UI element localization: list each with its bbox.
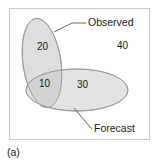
venn-diagram-svg: Observed Forecast 20 10 30 40 — [10, 9, 151, 141]
venn-diagram-frame: Observed Forecast 20 10 30 40 — [9, 8, 150, 140]
figure-caption: (a) — [7, 145, 20, 159]
leader-line-observed — [54, 23, 86, 32]
count-intersection: 10 — [39, 78, 51, 89]
count-observed-only: 20 — [37, 41, 49, 52]
count-neither: 40 — [117, 40, 129, 51]
set-label-observed: Observed — [88, 16, 134, 28]
set-label-forecast: Forecast — [94, 122, 135, 134]
count-forecast-only: 30 — [77, 79, 89, 90]
figure-root: Observed Forecast 20 10 30 40 (a) — [0, 0, 160, 162]
